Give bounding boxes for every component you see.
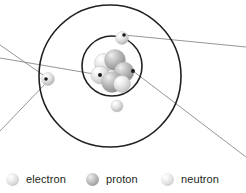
atom-diagram-figure: electronprotonneutron [0,0,246,193]
leader-line-neutron [133,71,246,157]
legend-item-electron: electron [6,165,66,193]
electron-top-sphere [116,32,129,45]
anchor-dot-electron-top [122,33,126,37]
anchor-dot-neutron [131,69,135,73]
legend-label-neutron: neutron [181,173,219,185]
legend-label-proton: proton [106,173,138,185]
leader-line-proton [0,58,100,75]
legend-item-proton: proton [86,165,138,193]
electron-sphere-icon [6,173,19,186]
legend-label-electron: electron [26,173,66,185]
leader-line-electron-top [124,35,246,47]
proton-sphere-icon [86,173,99,186]
anchor-dot-electron-left [44,77,48,81]
electron-left-sphere [42,73,55,86]
electron-bottom-sphere [111,100,123,112]
nucleus-group [91,50,134,93]
anchor-dot-proton [98,73,102,77]
legend-item-neutron: neutron [161,165,219,193]
neutron-sphere-icon [161,173,174,186]
particle-legend: electronprotonneutron [0,165,246,193]
bohr-model-illustration [0,0,246,165]
nucleus-neutron-sphere [114,76,131,93]
